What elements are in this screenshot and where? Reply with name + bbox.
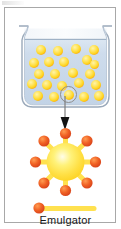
oil-droplet — [94, 91, 104, 101]
oil-droplet — [50, 69, 60, 79]
oil-droplet — [85, 69, 95, 79]
oil-droplet — [27, 79, 37, 89]
oil-droplet — [91, 80, 101, 90]
oil-droplet — [59, 57, 69, 67]
oil-droplet — [71, 44, 81, 54]
scan-artifact — [2, 1, 24, 5]
figure-frame: Emulgator — [4, 7, 116, 223]
oil-droplet — [53, 46, 63, 56]
oil-droplet — [33, 91, 43, 101]
emulgator-figure: Emulgator — [0, 0, 121, 229]
legend: Emulgator — [16, 202, 115, 229]
oil-droplet — [36, 45, 46, 55]
oil-droplet — [74, 78, 84, 88]
oil-droplet — [79, 92, 89, 102]
oil-droplet — [42, 80, 52, 90]
oil-droplet — [90, 60, 99, 69]
oil-droplet — [68, 68, 78, 78]
oil-droplet — [89, 45, 99, 55]
legend-label: Emulgator — [16, 214, 115, 226]
micelle-diagram — [26, 126, 105, 198]
oil-droplet — [44, 57, 54, 67]
oil-droplet — [34, 69, 44, 79]
oil-droplet — [29, 58, 39, 68]
